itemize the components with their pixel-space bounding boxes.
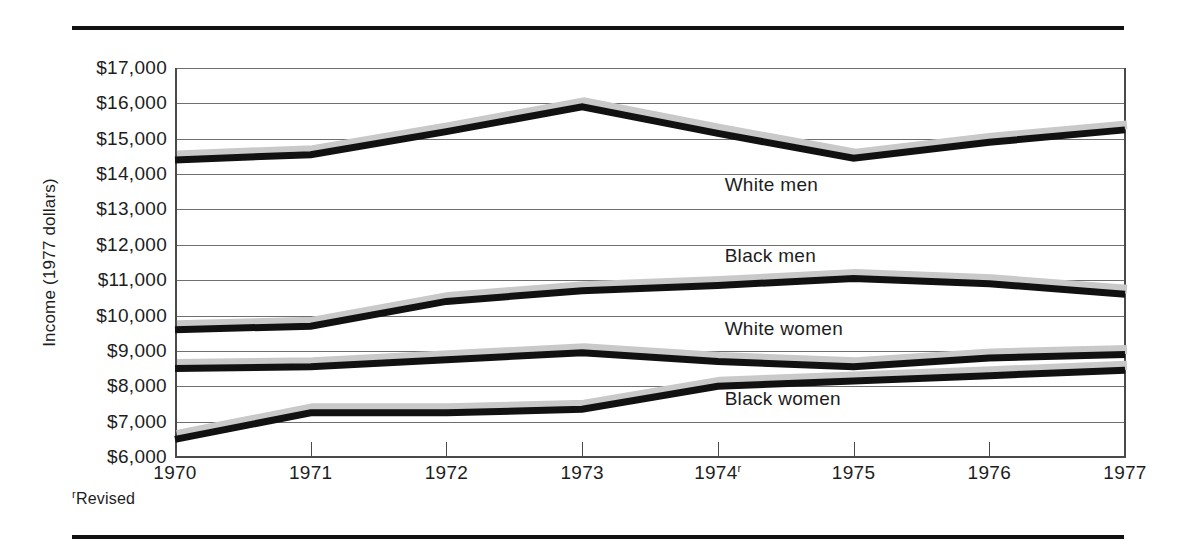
gridline (175, 245, 1125, 246)
x-axis-tick-superscript: r (738, 462, 742, 474)
series-label-black-women: Black women (725, 388, 841, 410)
y-axis-tick-label: $15,000 (0, 128, 175, 150)
y-axis-tick-label: $11,000 (0, 269, 175, 291)
x-axis-tick-label: 1972 (386, 462, 506, 484)
top-rule (72, 26, 1124, 30)
x-axis-tick (989, 442, 990, 457)
x-axis-tick-label: 1971 (251, 462, 371, 484)
x-axis-tick-label: 1976 (929, 462, 1049, 484)
series-shadow-black-women (177, 365, 1127, 434)
y-axis-title: Income (1977 dollars) (38, 68, 62, 457)
gridline (175, 422, 1125, 423)
gridline (175, 103, 1125, 104)
bottom-rule (72, 535, 1124, 539)
gridline (175, 174, 1125, 175)
axis-left-spine (175, 68, 177, 458)
y-axis-tick-label: $7,000 (0, 411, 175, 433)
gridline (175, 351, 1125, 352)
y-axis-tick-label: $9,000 (0, 340, 175, 362)
series-label-white-women: White women (725, 318, 843, 340)
x-axis-tick-label: 1974r (658, 462, 778, 484)
footnote-text: Revised (76, 490, 135, 507)
y-axis-tick-label: $14,000 (0, 163, 175, 185)
gridline (175, 386, 1125, 387)
series-line-white-men (175, 107, 1125, 160)
y-axis-tick-label: $16,000 (0, 92, 175, 114)
series-shadow-white-men (177, 102, 1127, 155)
gridline (175, 280, 1125, 281)
series-line-black-men (175, 278, 1125, 329)
axis-bottom-spine (175, 456, 1126, 458)
x-axis-tick-label: 1977 (1065, 462, 1185, 484)
gridline (175, 139, 1125, 140)
x-axis-tick (718, 442, 719, 457)
series-label-white-men: White men (725, 174, 819, 196)
x-axis-tick-label: 1975 (794, 462, 914, 484)
series-label-black-men: Black men (725, 245, 816, 267)
y-axis-tick-label: $10,000 (0, 305, 175, 327)
y-axis-tick-label: $12,000 (0, 234, 175, 256)
x-axis-tick (311, 442, 312, 457)
x-axis-tick (582, 442, 583, 457)
chart-figure: Income (1977 dollars) $17,000$16,000$15,… (0, 0, 1196, 553)
gridline (175, 209, 1125, 210)
y-axis-tick-label: $13,000 (0, 198, 175, 220)
gridline (175, 68, 1125, 69)
series-line-black-women (175, 370, 1125, 439)
x-axis-tick (854, 442, 855, 457)
x-axis-tick-label: 1973 (522, 462, 642, 484)
footnote: rRevised (72, 488, 135, 508)
x-axis-tick-label: 1970 (115, 462, 235, 484)
y-axis-tick-label: $17,000 (0, 57, 175, 79)
x-axis-tick (446, 442, 447, 457)
axis-right-spine (1124, 68, 1126, 458)
y-axis-tick-label: $8,000 (0, 375, 175, 397)
gridline (175, 316, 1125, 317)
series-line-white-women (175, 353, 1125, 369)
